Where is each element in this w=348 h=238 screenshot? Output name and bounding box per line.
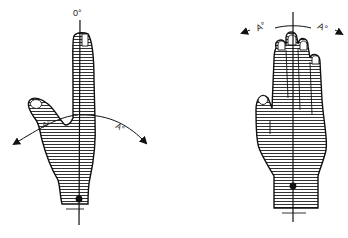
left-angle-label-right: A°	[114, 122, 126, 134]
right-little-nail	[312, 56, 319, 64]
right-thumb-nail	[258, 96, 268, 105]
right-ring-nail	[300, 41, 307, 50]
diagram-canvas: 0° A° A° A° A°	[0, 0, 348, 238]
left-index-nail	[82, 34, 88, 46]
right-hand-figure: A° A°	[242, 12, 342, 222]
right-index-nail	[278, 41, 285, 50]
right-middle-nail	[288, 35, 296, 45]
right-angle-label-right: A°	[316, 21, 329, 34]
right-angle-label-left: A°	[254, 20, 267, 33]
right-arrow-left	[242, 30, 250, 33]
right-arrow-right	[335, 30, 342, 34]
left-thumb-nail	[30, 100, 42, 109]
left-hand-figure: 0° A° A°	[14, 8, 146, 225]
right-pivot-dot	[290, 183, 297, 190]
left-pivot-dot	[76, 196, 83, 203]
left-zero-label: 0°	[73, 8, 82, 18]
